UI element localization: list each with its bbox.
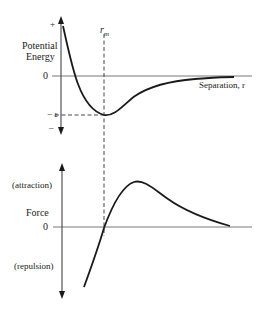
force-axis-label: Force bbox=[26, 207, 49, 218]
pe-epsilon-label: − ε bbox=[47, 109, 58, 120]
separation-axis-label: Separation, r bbox=[199, 80, 245, 91]
pe-axis-label-line1: Potential bbox=[22, 40, 58, 51]
attraction-label: (attraction) bbox=[12, 180, 52, 191]
potential-energy-curve bbox=[63, 26, 234, 115]
potential-energy-plot bbox=[52, 16, 252, 135]
rm-label: rm bbox=[100, 24, 109, 40]
force-plot bbox=[53, 163, 252, 299]
pe-plus-label: + bbox=[50, 19, 55, 30]
pe-y-axis-arrow-up-icon bbox=[58, 16, 64, 24]
pe-zero-label: 0 bbox=[43, 70, 48, 81]
force-zero-label: 0 bbox=[43, 221, 48, 232]
force-curve bbox=[84, 181, 230, 287]
rm-label-sub: m bbox=[104, 30, 109, 38]
pe-minus-label: – bbox=[49, 122, 54, 133]
force-y-axis-arrow-up-icon bbox=[59, 163, 65, 171]
force-y-axis-arrow-down-icon bbox=[59, 291, 65, 299]
pe-y-axis-arrow-down-icon bbox=[58, 127, 64, 135]
pe-axis-label-line2: Energy bbox=[26, 51, 55, 62]
repulsion-label: (repulsion) bbox=[14, 261, 54, 272]
